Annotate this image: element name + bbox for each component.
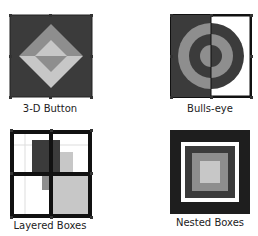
layered-boxes-label: Layered Boxes — [0, 220, 100, 231]
3d-button-label: 3-D Button — [0, 103, 100, 114]
layered-boxes-icon — [10, 130, 92, 218]
bulls-eye-label: Bulls-eye — [160, 103, 258, 114]
3d-button-icon — [9, 14, 93, 98]
nested-boxes-icon — [170, 130, 250, 214]
nested-boxes-label: Nested Boxes — [160, 217, 258, 228]
bulls-eye-icon — [170, 14, 252, 98]
